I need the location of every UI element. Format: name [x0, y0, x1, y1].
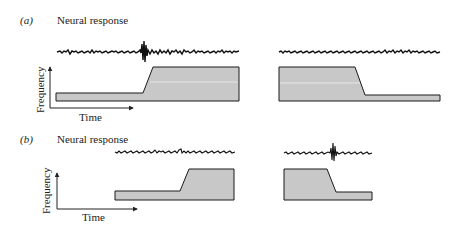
panel-b-left-stimulus: [115, 169, 234, 200]
panel-a-left-trace: [57, 41, 239, 62]
panel-b-right-trace: [284, 143, 372, 161]
panel-a-y-axis-label: Frequency: [34, 66, 46, 113]
panel-a-tag: (a): [20, 14, 33, 27]
panel-a-right-trace: [279, 50, 440, 53]
panel-b-title: Neural response: [57, 133, 128, 145]
figure: (a) Neural response Frequency Time (b) N…: [0, 0, 459, 231]
panel-b-x-axis-label: Time: [82, 211, 105, 223]
panel-b: (b) Neural response Frequency Time: [20, 133, 372, 223]
panel-a: (a) Neural response Frequency Time: [20, 14, 440, 123]
panel-b-left-trace: [115, 149, 235, 153]
panel-a-x-axis-label: Time: [79, 111, 102, 123]
panel-b-y-axis-label: Frequency: [40, 167, 52, 214]
panel-a-left-stimulus: [56, 67, 239, 101]
panel-a-title: Neural response: [57, 14, 128, 26]
panel-a-right-stimulus: [279, 67, 440, 101]
panel-b-tag: (b): [20, 133, 33, 146]
panel-b-right-stimulus: [284, 169, 372, 200]
